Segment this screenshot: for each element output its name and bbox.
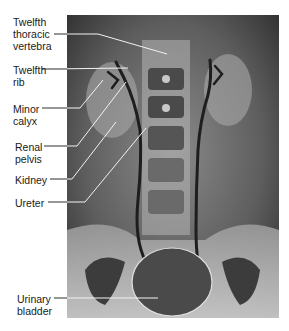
label-kidney: Kidney [15,174,47,186]
urinary-bladder-shape [132,248,212,316]
label-urinary-bladder: Urinary bladder [17,293,52,317]
label-ureter: Ureter [15,197,44,209]
label-twelfth-rib: Twelfth rib [13,64,46,88]
label-minor-calyx: Minor calyx [13,103,39,127]
label-renal-pelvis: Renal pelvis [15,141,42,165]
label-twelfth-thoracic-vertebra: Twelfth thoracic vertebra [13,16,52,52]
spine [142,40,190,235]
